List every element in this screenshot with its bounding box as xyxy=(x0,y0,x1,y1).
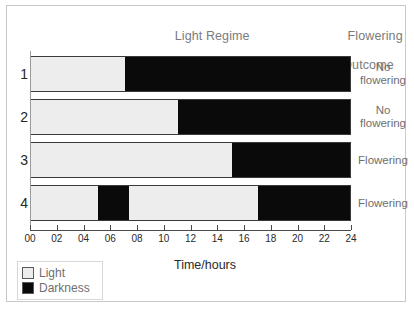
axis-tick xyxy=(84,225,85,230)
axis-tick xyxy=(351,225,352,230)
axis-tick xyxy=(30,225,31,230)
axis-tick-label: 20 xyxy=(287,233,309,245)
time-axis: 00020406081012141618202224 xyxy=(30,223,351,257)
row-number-label: 4 xyxy=(12,195,28,211)
axis-tick-label: 10 xyxy=(153,233,175,245)
axis-tick xyxy=(137,225,138,230)
legend-swatch xyxy=(22,282,34,294)
darkness-segment xyxy=(125,57,351,91)
legend-item: Darkness xyxy=(22,280,98,295)
legend-label: Darkness xyxy=(39,281,90,295)
row-number-label: 1 xyxy=(12,66,28,82)
light-segment xyxy=(31,100,178,134)
axis-tick xyxy=(324,225,325,230)
flowering-outcome-label: No flowering xyxy=(356,104,410,130)
axis-tick xyxy=(164,225,165,230)
axis-tick-label: 24 xyxy=(340,233,362,245)
axis-tick xyxy=(110,225,111,230)
light-segment xyxy=(31,186,98,220)
legend-label: Light xyxy=(39,266,65,280)
axis-tick-label: 16 xyxy=(233,233,255,245)
darkness-segment xyxy=(178,100,351,134)
flowering-outcome-header-line1: Flowering xyxy=(348,29,403,43)
axis-tick xyxy=(57,225,58,230)
axis-tick-label: 12 xyxy=(180,233,202,245)
darkness-segment xyxy=(258,186,351,220)
light-regime-figure: Light Regime (Long Day Plants) Flowering… xyxy=(0,0,414,309)
axis-tick-label: 02 xyxy=(46,233,68,245)
bars-plot-area xyxy=(30,56,351,223)
axis-tick-label: 14 xyxy=(206,233,228,245)
legend: LightDarkness xyxy=(17,261,103,300)
light-regime-header-line1: Light Regime xyxy=(175,29,250,43)
bar-row xyxy=(30,185,351,221)
bar-row xyxy=(30,56,351,92)
bar-row xyxy=(30,99,351,135)
bar-row xyxy=(30,142,351,178)
axis-tick xyxy=(298,225,299,230)
legend-item: Light xyxy=(22,265,98,280)
darkness-segment xyxy=(232,143,351,177)
flowering-outcome-label: Flowering xyxy=(356,154,410,167)
axis-tick-label: 06 xyxy=(99,233,121,245)
axis-vertical-line xyxy=(30,51,31,231)
axis-tick xyxy=(244,225,245,230)
axis-horizontal-line xyxy=(30,230,351,231)
axis-tick-label: 00 xyxy=(19,233,41,245)
axis-tick-label: 04 xyxy=(73,233,95,245)
axis-tick-label: 22 xyxy=(313,233,335,245)
axis-tick-label: 08 xyxy=(126,233,148,245)
legend-swatch xyxy=(22,267,34,279)
flowering-outcome-label: No flowering xyxy=(356,61,410,87)
axis-tick xyxy=(217,225,218,230)
light-segment xyxy=(31,143,232,177)
flowering-outcome-label: Flowering xyxy=(356,197,410,210)
light-segment xyxy=(31,57,125,91)
light-segment xyxy=(129,186,259,220)
axis-tick-label: 18 xyxy=(260,233,282,245)
row-number-label: 3 xyxy=(12,152,28,168)
axis-tick xyxy=(191,225,192,230)
axis-tick xyxy=(271,225,272,230)
darkness-segment xyxy=(98,186,129,220)
axis-title: Time/hours xyxy=(120,258,290,272)
row-number-label: 2 xyxy=(12,109,28,125)
